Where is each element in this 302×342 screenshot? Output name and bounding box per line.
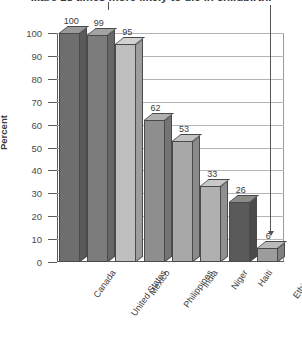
- bar: 53: [172, 141, 193, 262]
- y-tick-mark: [48, 193, 57, 194]
- bar-value-label: 26: [236, 185, 246, 195]
- bar-front-face: [229, 202, 250, 262]
- x-axis-label: Niger: [229, 268, 250, 291]
- y-tick-label: 90: [6, 50, 42, 61]
- y-tick-label: 20: [6, 211, 42, 222]
- y-tick-mark: [48, 33, 57, 34]
- y-tick-label: 10: [6, 234, 42, 245]
- y-tick-mark: [48, 262, 57, 263]
- bar-side-face: [250, 197, 257, 262]
- y-tick-mark: [48, 79, 57, 80]
- bar: 100: [59, 33, 80, 262]
- bar-side-face: [221, 181, 228, 262]
- bar: 99: [87, 35, 108, 262]
- x-axis-label: Ethiopia: [290, 268, 302, 300]
- bar: 26: [229, 202, 250, 262]
- bar: 33: [200, 186, 221, 262]
- bar: 6: [257, 248, 278, 262]
- annotation-arrowhead: [268, 231, 274, 236]
- x-axis-label: Haiti: [256, 268, 275, 288]
- y-tick-label: 80: [6, 73, 42, 84]
- bar-side-face: [80, 28, 87, 262]
- bar-value-label: 53: [179, 124, 189, 134]
- chart-title: ...are 18 times more likely to die in ch…: [0, 0, 302, 3]
- y-tick-mark: [48, 216, 57, 217]
- bar-front-face: [257, 248, 278, 262]
- y-tick-label: 70: [6, 96, 42, 107]
- bar-value-label: 99: [94, 18, 104, 28]
- bar: 95: [115, 44, 136, 262]
- bar-side-face: [165, 115, 172, 262]
- x-axis-label: Canada: [91, 268, 117, 300]
- bar-chart: ...are 18 times more likely to die in ch…: [0, 0, 302, 342]
- y-tick-label: 30: [6, 188, 42, 199]
- bar-value-label: 62: [151, 103, 161, 113]
- bar-value-label: 95: [122, 27, 132, 37]
- y-tick-mark: [48, 102, 57, 103]
- bar-front-face: [172, 141, 193, 262]
- bar-front-face: [87, 35, 108, 262]
- y-tick-mark: [48, 125, 57, 126]
- bar-front-face: [200, 186, 221, 262]
- y-tick-label: 50: [6, 142, 42, 153]
- bar-side-face: [193, 135, 200, 262]
- y-tick-mark: [48, 239, 57, 240]
- y-tick-mark: [48, 148, 57, 149]
- y-tick-label: 40: [6, 165, 42, 176]
- bar-side-face: [108, 30, 115, 262]
- bar-value-label: 33: [207, 169, 217, 179]
- chart-title-clipped: ...are 18 times more likely to die in ch…: [0, 0, 302, 5]
- bar-front-face: [59, 33, 80, 262]
- y-axis-title: Percent: [0, 115, 9, 150]
- y-tick-mark: [48, 170, 57, 171]
- bar-front-face: [144, 120, 165, 262]
- bar-front-face: [115, 44, 136, 262]
- y-tick-label: 60: [6, 119, 42, 130]
- annotation-line: [270, 5, 271, 231]
- y-tick-label: 0: [6, 257, 42, 268]
- bar-value-label: 100: [64, 16, 79, 26]
- annotation-tick: [108, 2, 109, 10]
- y-tick-mark: [48, 56, 57, 57]
- bar-side-face: [136, 39, 143, 262]
- y-tick-label: 100: [6, 28, 42, 39]
- bar: 62: [144, 120, 165, 262]
